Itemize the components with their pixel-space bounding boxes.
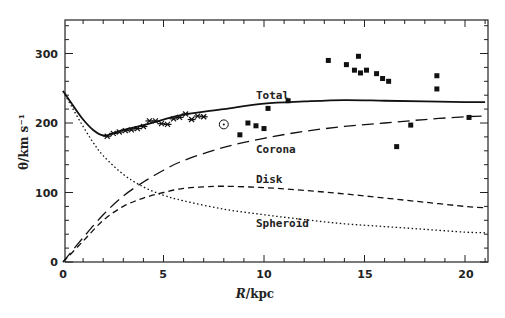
y-tick-200: 200 (35, 117, 58, 130)
square-point (386, 79, 391, 84)
square-point (467, 115, 472, 120)
y-tick-100: 100 (35, 187, 58, 200)
square-point (344, 62, 349, 67)
rotation-curve-chart: 0 100 200 300 0 5 10 15 20 R/kpc θ/km s⁻… (0, 0, 505, 318)
sun-marker (219, 120, 228, 129)
x-tick-10: 10 (256, 268, 272, 281)
x-tick-labels: 0 5 10 15 20 (59, 268, 474, 281)
y-tick-300: 300 (35, 48, 58, 61)
y-axis-title: θ/km s⁻¹ (17, 114, 31, 170)
corona-curve (63, 116, 485, 262)
square-point (358, 70, 363, 75)
spheroid-curve (63, 91, 485, 233)
x-tick-15: 15 (357, 268, 372, 281)
x-axis-title-var: R (235, 287, 246, 301)
square-point (408, 123, 413, 128)
square-point (374, 71, 379, 76)
square-point (326, 58, 331, 63)
y-tick-labels: 0 100 200 300 (35, 48, 58, 269)
square-point (253, 123, 258, 128)
label-corona: Corona (256, 143, 296, 156)
label-spheroid: Spheroid (256, 217, 309, 230)
square-point (262, 126, 267, 131)
square-point (394, 144, 399, 149)
square-point (364, 68, 369, 73)
square-point (356, 54, 361, 59)
y-tick-0: 0 (50, 256, 58, 269)
x-tick-20: 20 (458, 268, 474, 281)
cross-data-points (103, 111, 207, 138)
x-tick-0: 0 (59, 268, 67, 281)
square-point (434, 73, 439, 78)
square-point (380, 76, 385, 81)
label-disk: Disk (256, 173, 283, 186)
label-total: Total (256, 89, 289, 102)
square-point (266, 106, 271, 111)
x-tick-5: 5 (159, 268, 167, 281)
x-axis-title-unit: /kpc (246, 287, 274, 301)
square-point (237, 132, 242, 137)
square-point (352, 68, 357, 73)
square-point (245, 121, 250, 126)
sun-dot (223, 123, 225, 125)
square-point (434, 86, 439, 91)
x-axis-title: R/kpc (235, 287, 274, 301)
